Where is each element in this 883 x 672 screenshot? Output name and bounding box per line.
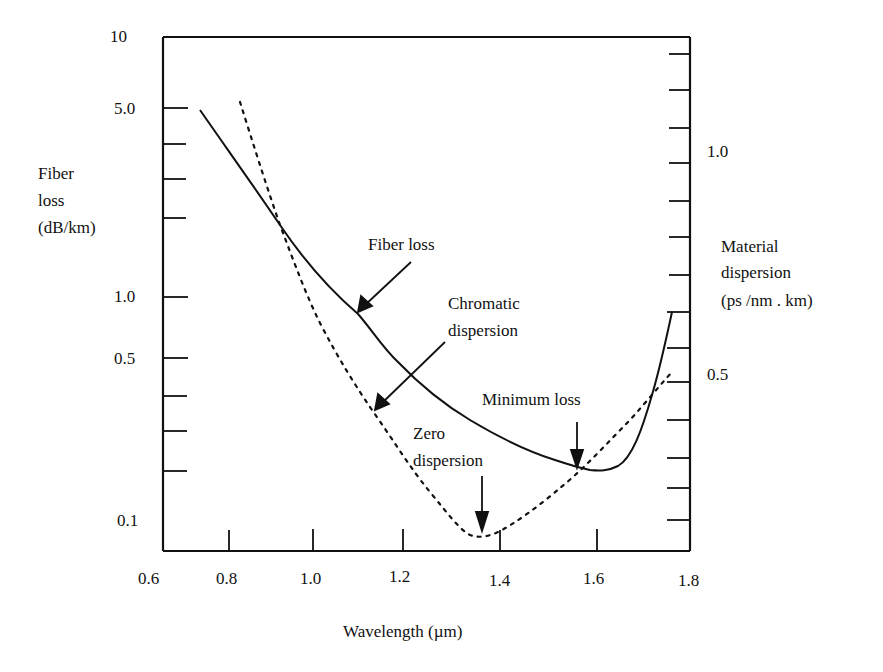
x-tick-label: 1.0	[300, 570, 321, 587]
annotation-minimum-loss: Minimum loss	[482, 391, 581, 408]
left-tick-label: 1.0	[114, 288, 135, 305]
left-axis-title-line: (dB/km)	[38, 219, 96, 236]
x-ticks	[229, 529, 597, 551]
plot-frame	[163, 37, 690, 551]
fiber-loss-arrowhead	[358, 296, 372, 312]
left-tick-label: 0.1	[117, 512, 138, 529]
left-tick-label: 5.0	[114, 100, 135, 117]
annotation-zero-line2: dispersion	[413, 452, 483, 469]
annotation-chromatic-line2: dispersion	[448, 322, 518, 339]
annotation-chromatic-line1: Chromatic	[448, 295, 520, 312]
zero-dispersion-arrowhead	[476, 512, 488, 531]
left-y-ticks	[163, 108, 188, 471]
fiber-loss-curve	[200, 110, 672, 471]
left-axis-title-line: loss	[38, 192, 64, 209]
right-tick-label: 0.5	[707, 366, 728, 383]
x-tick-label: 1.6	[583, 570, 604, 587]
right-axis-title-line: Material	[721, 238, 779, 255]
x-axis-title: Wavelength (µm)	[343, 623, 462, 640]
x-tick-label: 1.2	[389, 568, 410, 585]
annotation-fiber-loss: Fiber loss	[368, 236, 435, 253]
chromatic-arrow	[381, 342, 445, 404]
x-tick-label: 0.8	[216, 570, 237, 587]
right-y-ticks	[667, 54, 690, 520]
left-axis-title-line: Fiber	[38, 165, 74, 182]
annotation-zero-line1: Zero	[413, 425, 445, 442]
x-tick-label: 1.4	[489, 572, 510, 589]
right-axis-title-line: dispersion	[721, 264, 791, 281]
right-tick-label: 1.0	[707, 143, 728, 160]
x-tick-label: 1.8	[678, 572, 699, 589]
left-tick-label: 10	[110, 28, 127, 45]
chromatic-arrowhead	[375, 394, 389, 410]
right-axis-title-line: (ps /nm . km)	[721, 292, 813, 309]
left-tick-label: 0.5	[114, 350, 135, 367]
fiber-loss-arrow	[364, 262, 411, 306]
x-tick-label: 0.6	[138, 570, 159, 587]
chromatic-dispersion-curve	[240, 102, 672, 537]
